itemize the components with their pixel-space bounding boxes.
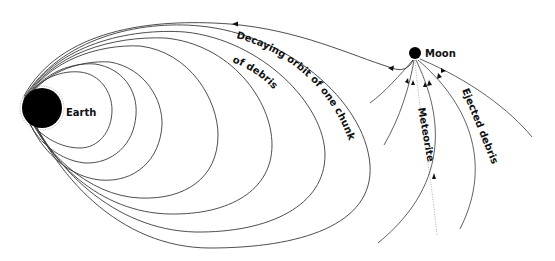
orbit-6 (24, 31, 325, 232)
moon: Moon (409, 47, 456, 59)
trajectory-2 (384, 60, 414, 145)
arrow-icon (437, 73, 442, 79)
moon-trajectories (370, 59, 532, 243)
arrow-icon (411, 80, 415, 85)
earth-icon (22, 88, 62, 128)
earth: Earth (20, 86, 96, 130)
earth-label: Earth (66, 107, 96, 118)
arrow-icon (432, 173, 436, 179)
diagram-canvas: Earth Moon Decaying orbit of one chunk o… (0, 0, 555, 261)
ejected-debris-label: Ejected debris (460, 87, 500, 166)
arrow-icon (388, 66, 394, 72)
arrow-icon (427, 80, 432, 86)
orbit-7 (24, 25, 370, 248)
orbit-outer-to-moon (24, 23, 413, 96)
moon-icon (409, 47, 421, 59)
arrow-icon (405, 78, 409, 84)
moon-label: Moon (425, 48, 456, 59)
arrow-icon (232, 22, 238, 27)
decaying-orbit-label: Decaying orbit of one chunk (236, 29, 358, 141)
